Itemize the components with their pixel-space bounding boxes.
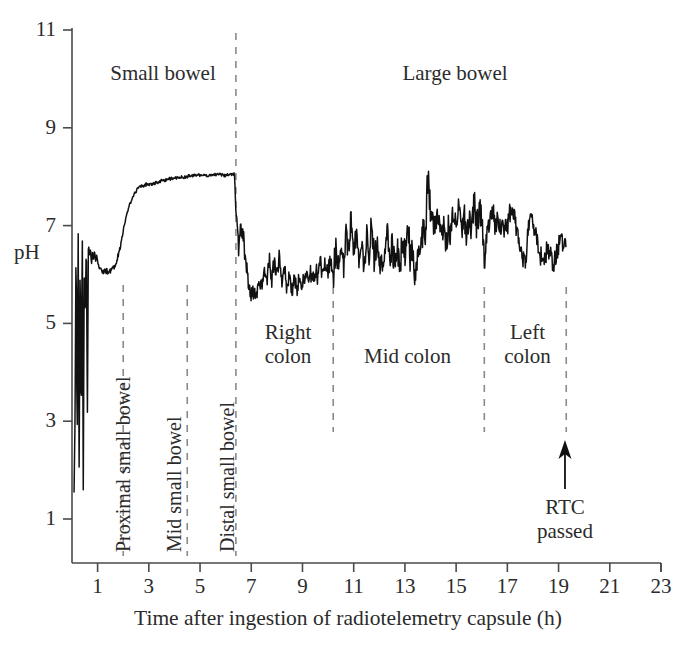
rtc-passed-annotation: RTC passed — [506, 495, 624, 543]
segment-label-mid-small-bowel: Mid small bowel — [163, 416, 186, 552]
right-colon-line1: Right — [248, 320, 328, 344]
rtc-line2: passed — [506, 519, 624, 543]
y-axis-title: pH — [14, 240, 40, 265]
plot-canvas — [0, 0, 696, 647]
x-tick-13: 13 — [385, 576, 425, 597]
x-tick-5: 5 — [180, 576, 220, 597]
x-tick-1: 1 — [78, 576, 118, 597]
region-dividers — [123, 33, 566, 556]
x-tick-15: 15 — [436, 576, 476, 597]
x-tick-23: 23 — [641, 576, 681, 597]
y-tick-7: 7 — [16, 215, 56, 236]
x-tick-3: 3 — [129, 576, 169, 597]
y-tick-9: 9 — [16, 117, 56, 138]
axis-lines — [72, 28, 661, 563]
y-tick-11: 11 — [16, 19, 56, 40]
rtc-arrow — [558, 440, 571, 489]
x-tick-11: 11 — [334, 576, 374, 597]
y-tick-1: 1 — [16, 508, 56, 529]
segment-label-left-colon: Left colon — [485, 320, 570, 368]
ph-chart-figure: pH Time after ingestion of radiotelemetr… — [0, 0, 696, 647]
x-tick-7: 7 — [231, 576, 271, 597]
x-tick-17: 17 — [487, 576, 527, 597]
segment-label-proximal-small-bowel: Proximal small bowel — [112, 376, 135, 552]
region-header-large-bowel: Large bowel — [250, 62, 660, 86]
segment-label-distal-small-bowel: Distal small bowel — [216, 402, 239, 552]
x-axis-title: Time after ingestion of radiotelemetry c… — [0, 606, 696, 631]
tick-marks — [63, 30, 661, 572]
y-tick-5: 5 — [16, 312, 56, 333]
x-tick-9: 9 — [282, 576, 322, 597]
left-colon-line2: colon — [485, 344, 570, 368]
x-tick-21: 21 — [590, 576, 630, 597]
y-tick-3: 3 — [16, 410, 56, 431]
left-colon-line1: Left — [485, 320, 570, 344]
right-colon-line2: colon — [248, 344, 328, 368]
rtc-line1: RTC — [506, 495, 624, 519]
segment-label-mid-colon: Mid colon — [332, 345, 483, 369]
x-tick-19: 19 — [539, 576, 579, 597]
segment-label-right-colon: Right colon — [248, 320, 328, 368]
region-header-small-bowel: Small bowel — [88, 62, 238, 86]
